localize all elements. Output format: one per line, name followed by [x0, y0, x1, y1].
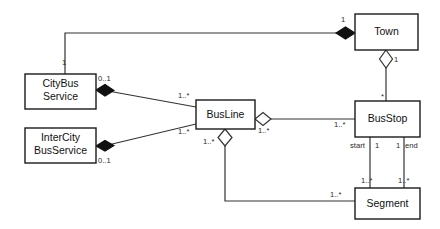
- multiplicity-busline-citybusservice: 1..*: [178, 91, 189, 100]
- multiplicity-citybusservice-busline: 0..1: [98, 74, 111, 83]
- class-label-segment: Segment: [366, 197, 408, 209]
- multiplicity-end-one: 1: [396, 141, 400, 150]
- aggregation-diamond-town-busstop: [380, 50, 393, 68]
- class-box-segment[interactable]: Segment: [355, 188, 420, 219]
- role-label-end: end: [405, 141, 418, 150]
- class-label-town: Town: [374, 25, 399, 37]
- multiplicity-busline-intercitybusservice: 1..*: [178, 127, 189, 136]
- multiplicity-busline-busstop: 1..*: [258, 126, 269, 135]
- multiplicity-segment-busline: 1..*: [330, 190, 341, 199]
- role-label-start: start: [350, 141, 366, 150]
- class-label-citybusservice-line2: Service: [43, 90, 78, 102]
- class-label-intercitybusservice-line1: InterCity: [41, 131, 81, 143]
- class-box-citybusservice[interactable]: CityBus Service: [25, 74, 96, 109]
- aggregation-diamond-busline-segment: [218, 129, 232, 146]
- multiplicity-segment-start: 1..*: [361, 176, 372, 185]
- multiplicity-segment-end: 1..*: [398, 176, 409, 185]
- class-label-citybusservice-line1: CityBus: [42, 77, 78, 89]
- aggregation-diamond-busline-busstop: [255, 113, 271, 126]
- multiplicity-town-citybusservice: 1: [341, 15, 345, 24]
- class-box-busstop[interactable]: BusStop: [355, 101, 420, 137]
- multiplicity-town-busstop: 1: [394, 55, 398, 64]
- composition-diamond-citybusservice: [96, 85, 114, 97]
- class-label-busstop: BusStop: [368, 112, 408, 124]
- uml-class-diagram: CityBus Service InterCity BusService Bus…: [0, 0, 440, 229]
- multiplicity-busstop-town: *: [381, 92, 384, 101]
- class-label-busline: BusLine: [207, 108, 245, 120]
- composition-diamond-town: [336, 27, 355, 39]
- edge-town-citybusservice: [65, 33, 344, 74]
- class-box-intercitybusservice[interactable]: InterCity BusService: [25, 128, 96, 163]
- multiplicity-busstop-busline: 1..*: [334, 120, 345, 129]
- multiplicity-citybusservice-town: 1: [62, 58, 66, 67]
- diagram-canvas: CityBus Service InterCity BusService Bus…: [0, 0, 440, 229]
- class-box-busline[interactable]: BusLine: [196, 100, 255, 129]
- composition-diamond-intercitybusservice: [96, 141, 114, 152]
- multiplicity-start-one: 1: [375, 141, 379, 150]
- class-label-intercitybusservice-line2: BusService: [34, 144, 87, 156]
- multiplicity-intercitybusservice-busline: 0..1: [98, 156, 111, 165]
- class-box-town[interactable]: Town: [355, 14, 418, 50]
- multiplicity-busline-segment: 1..*: [203, 137, 214, 146]
